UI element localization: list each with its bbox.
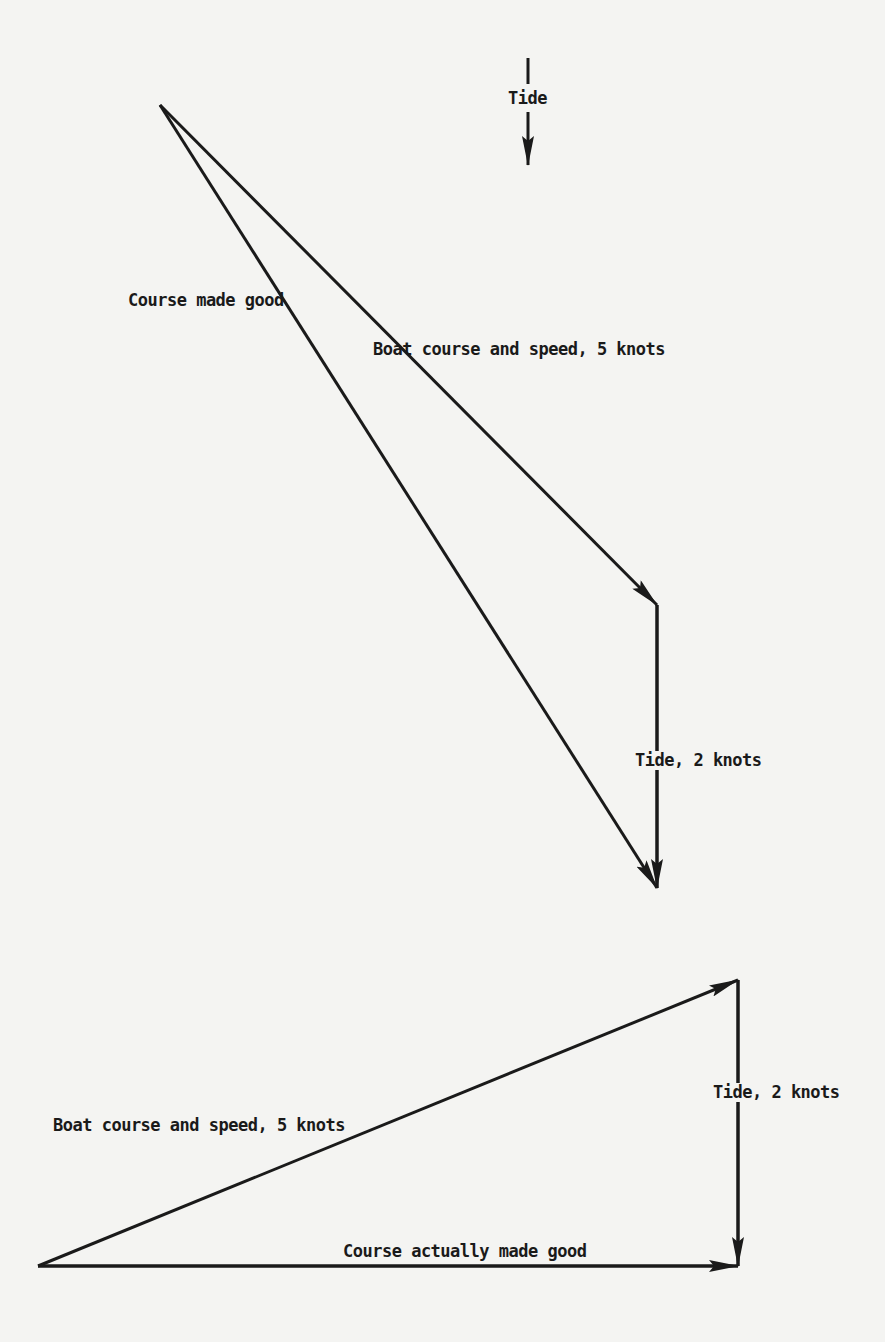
lower-course-actually-made-good-label: Course actually made good [343,1243,586,1260]
lower-boat-course-label: Boat course and speed, 5 knots [53,1117,345,1134]
upper-triangle [160,105,657,888]
diagram-canvas: Tide Course made good Boat course and sp… [0,0,885,1342]
lower-tide-label: Tide, 2 knots [711,1083,842,1102]
vector-diagram [0,0,885,1342]
upper-tide-label: Tide, 2 knots [633,751,764,770]
upper-course-made-good-label: Course made good [128,292,284,309]
upper-course-made-good-arrow [160,105,657,888]
tide-legend-label: Tide [508,90,547,107]
upper-boat-course-label: Boat course and speed, 5 knots [373,341,665,358]
